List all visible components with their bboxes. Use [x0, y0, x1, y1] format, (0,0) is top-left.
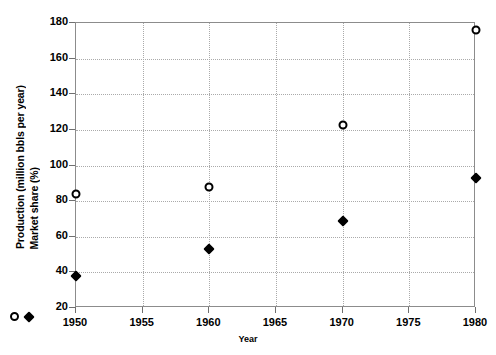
y-tick-label: 180: [16, 16, 68, 27]
data-point: [472, 174, 480, 182]
x-tick-mark: [275, 307, 276, 313]
x-tick-label: 1975: [378, 316, 438, 328]
x-tick-label: 1965: [245, 316, 305, 328]
data-point: [205, 182, 214, 191]
plot-area: [75, 22, 475, 307]
gridline-vertical: [143, 23, 144, 306]
y-tick-label-text: 160: [22, 52, 68, 63]
data-point: [339, 217, 347, 225]
y-tick-label-text: 100: [22, 159, 68, 170]
x-tick-label: 1980: [445, 316, 496, 328]
y-tick-label: 140: [16, 87, 68, 98]
gridline-horizontal: [76, 201, 474, 202]
x-axis-title: Year: [0, 334, 496, 344]
y-tick-label: 100: [16, 159, 68, 170]
y-tick-label-text: 40: [22, 265, 68, 276]
y-tick-label: 120: [16, 123, 68, 134]
x-tick-mark: [75, 307, 76, 313]
gridline-vertical: [209, 23, 210, 306]
y-tick-label: 80: [16, 194, 68, 205]
gridline-vertical: [409, 23, 410, 306]
data-point: [205, 245, 213, 253]
scatter-chart: Production (million bbls per year) Marke…: [0, 0, 496, 355]
filled-diamond-icon: [204, 244, 215, 255]
legend-open-circle-icon: [10, 312, 19, 321]
data-point: [472, 26, 481, 35]
gridline-vertical: [276, 23, 277, 306]
y-tick-label: 60: [16, 230, 68, 241]
gridline-horizontal: [76, 272, 474, 273]
x-tick-mark: [342, 307, 343, 313]
y-tick-label: 20: [16, 301, 68, 312]
y-tick-label-text: 60: [22, 230, 68, 241]
gridline-vertical: [343, 23, 344, 306]
y-tick-label: 40: [16, 265, 68, 276]
gridline-horizontal: [76, 59, 474, 60]
data-point: [72, 272, 80, 280]
x-tick-label: 1950: [45, 316, 105, 328]
x-tick-mark: [475, 307, 476, 313]
y-tick-label-text: 80: [22, 194, 68, 205]
x-tick-label: 1960: [178, 316, 238, 328]
x-tick-label: 1955: [112, 316, 172, 328]
open-circle-icon: [338, 120, 347, 129]
data-point: [72, 190, 81, 199]
x-tick-mark: [142, 307, 143, 313]
y-tick-label-text: 180: [22, 16, 68, 27]
gridline-horizontal: [76, 166, 474, 167]
open-circle-icon: [205, 182, 214, 191]
y-tick-label-text: 20: [22, 301, 68, 312]
filled-diamond-icon: [337, 215, 348, 226]
open-circle-icon: [472, 26, 481, 35]
gridline-horizontal: [76, 237, 474, 238]
filled-diamond-icon: [70, 270, 81, 281]
x-tick-mark: [208, 307, 209, 313]
x-tick-mark: [408, 307, 409, 313]
y-tick-label-text: 120: [22, 123, 68, 134]
gridline-horizontal: [76, 130, 474, 131]
data-point: [338, 120, 347, 129]
legend-filled-diamond-icon: [25, 313, 33, 321]
gridline-horizontal: [76, 94, 474, 95]
open-circle-icon: [72, 190, 81, 199]
filled-diamond-icon: [470, 172, 481, 183]
y-tick-label: 160: [16, 52, 68, 63]
y-tick-label-text: 140: [22, 87, 68, 98]
x-tick-label: 1970: [312, 316, 372, 328]
